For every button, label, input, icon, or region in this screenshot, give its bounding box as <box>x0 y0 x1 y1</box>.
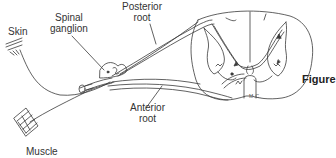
posterior-root-label-line1: Posterior <box>122 1 162 12</box>
muscle-icon <box>14 108 38 136</box>
anterior-root-label-line1: Anterior <box>130 102 165 113</box>
spinal-ganglion-label: Spinal ganglion <box>50 12 88 34</box>
artist-signature: M.C. <box>249 93 262 99</box>
spinal-ganglion-label-line2: ganglion <box>50 23 88 34</box>
anterior-root-label-line2: root <box>130 113 165 124</box>
sensory-fiber <box>20 50 110 95</box>
spinal-ganglion-label-line1: Spinal <box>50 12 88 23</box>
posterior-root-label: Posterior root <box>122 1 162 23</box>
muscle-label: Muscle <box>26 146 58 157</box>
skin-receptor-icon <box>6 38 22 55</box>
leader-spinal-ganglion <box>72 36 104 70</box>
anterior-root-label: Anterior root <box>130 102 165 124</box>
motor-fiber <box>30 83 112 122</box>
spinal-cord-outline <box>191 11 313 100</box>
posterior-root-label-line2: root <box>122 12 162 23</box>
figure-caption: Figure <box>302 73 336 85</box>
skin-label: Skin <box>8 26 27 37</box>
leader-posterior-root <box>150 24 156 44</box>
